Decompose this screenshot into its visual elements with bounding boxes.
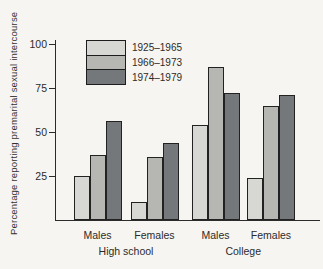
legend-swatch-stack <box>86 40 126 85</box>
y-tick-label-25: 25 <box>21 171 47 181</box>
bar-group1-1925-1965 <box>131 202 147 220</box>
bar-group2-1966-1973 <box>208 67 224 220</box>
bar-group0-1974-1979 <box>106 121 122 220</box>
y-axis-label: Percentage reporting premarital sexual i… <box>8 29 22 235</box>
group-label-college: College <box>193 245 293 257</box>
legend-swatch-1966-1973 <box>87 56 125 71</box>
legend-label-1925-1965: 1925–1965 <box>132 43 182 53</box>
bar-group0-1966-1973 <box>90 155 106 220</box>
legend-swatch-1925-1965 <box>87 41 125 56</box>
x-axis-line <box>55 220 320 221</box>
y-tick-mark-25 <box>49 176 55 177</box>
bar-group1-1966-1973 <box>147 157 163 220</box>
y-tick-mark-50 <box>49 132 55 133</box>
bar-chart-figure: Percentage reporting premarital sexual i… <box>0 0 323 269</box>
y-tick-label-100: 100 <box>21 39 47 49</box>
bar-group3-1925-1965 <box>247 178 263 220</box>
legend-label-1974-1979: 1974–1979 <box>132 73 182 83</box>
category-label-3: Females <box>231 229 311 241</box>
bar-group2-1974-1979 <box>224 93 240 220</box>
legend-swatch-1974-1979 <box>87 70 125 84</box>
y-tick-mark-75 <box>49 88 55 89</box>
y-tick-label-50: 50 <box>21 127 47 137</box>
bar-group3-1966-1973 <box>263 106 279 220</box>
y-tick-label-75: 75 <box>21 83 47 93</box>
bar-group0-1925-1965 <box>74 176 90 220</box>
legend-label-1966-1973: 1966–1973 <box>132 58 182 68</box>
bar-group1-1974-1979 <box>163 143 179 220</box>
y-axis-line <box>55 40 56 221</box>
bar-group2-1925-1965 <box>192 125 208 220</box>
group-label-high-school: High school <box>76 245 176 257</box>
y-tick-mark-100 <box>49 44 55 45</box>
bar-group3-1974-1979 <box>279 95 295 220</box>
